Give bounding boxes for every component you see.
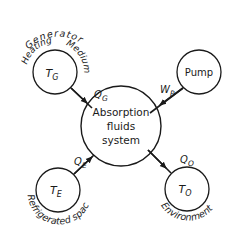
center-label-line2: fluids (107, 120, 135, 132)
heat-flow-environment: QO (148, 150, 194, 173)
svg-text:WP: WP (160, 84, 175, 98)
evaporator-temp-subscript: E (57, 190, 63, 199)
absorption-system-diagram: Absorption fluids system TG Generator He… (0, 0, 242, 252)
center-label-line3: system (102, 134, 140, 146)
generator-node: TG (33, 50, 77, 94)
environment-node: TO (165, 167, 209, 211)
absorption-fluids-system-node: Absorption fluids system (81, 86, 161, 166)
svg-text:TG: TG (46, 67, 59, 82)
generator-temp-subscript: G (52, 73, 58, 82)
svg-text:TE: TE (50, 184, 63, 199)
pump-node: Pump (177, 50, 221, 94)
work-flow-pump: WP (150, 84, 183, 113)
center-label-line1: Absorption (93, 106, 150, 118)
heat-flow-refrigerated-space: QE (74, 155, 94, 174)
environment-temp-subscript: O (185, 189, 191, 198)
svg-text:TO: TO (178, 183, 191, 198)
refrigerated-space-node: TE (36, 168, 80, 212)
pump-label: Pump (185, 67, 213, 78)
svg-text:QO: QO (180, 154, 194, 168)
svg-text:QG: QG (94, 89, 108, 103)
